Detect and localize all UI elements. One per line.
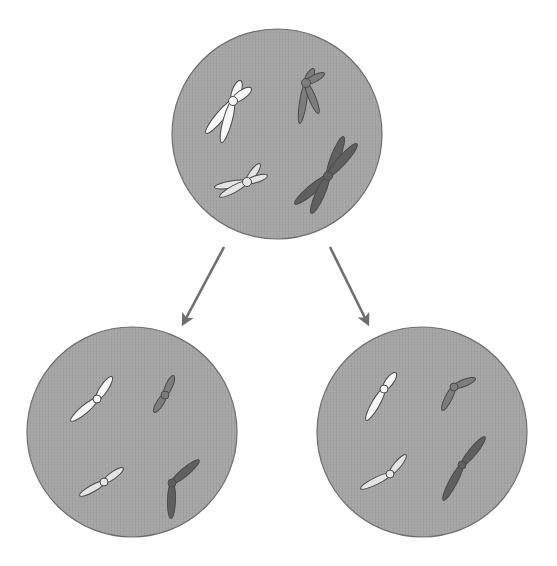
centromere (243, 178, 252, 187)
centromere (450, 383, 458, 391)
centromere (302, 79, 311, 88)
daughter-cell-right (317, 327, 527, 537)
cell-division-diagram (0, 0, 557, 566)
centromere (386, 470, 394, 478)
centromere (458, 461, 466, 469)
cell-membrane (27, 327, 237, 537)
parent-cell (172, 29, 382, 239)
arrow-to-left-daughter (183, 247, 224, 324)
centromere (161, 391, 169, 399)
centromere (100, 478, 108, 486)
centromere (324, 172, 333, 181)
centromere (168, 479, 176, 487)
cells-layer (27, 29, 527, 537)
arrow-to-right-daughter (330, 247, 368, 324)
daughter-cell-left (27, 327, 237, 537)
centromere (380, 385, 388, 393)
cell-membrane (172, 29, 382, 239)
centromere (93, 395, 101, 403)
cell-membrane (317, 327, 527, 537)
centromere (229, 97, 238, 106)
arrows-layer (183, 247, 368, 324)
